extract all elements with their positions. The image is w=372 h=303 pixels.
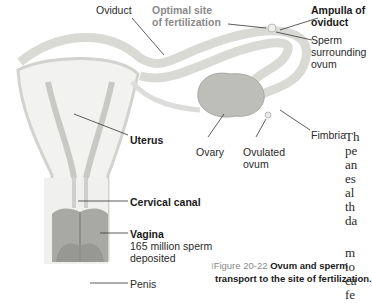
body-text-fragment: ca <box>345 274 357 288</box>
body-text-fragment: th <box>345 200 355 214</box>
figure-number: Figure 20-22 <box>214 260 268 271</box>
body-text-fragment: pe <box>345 144 357 158</box>
label-optimal-site-line2: of fertilization <box>152 16 221 28</box>
body-text-fragment: io <box>345 260 355 274</box>
label-ovulated-line1: Ovulated <box>243 146 285 158</box>
body-text-fragment: an <box>345 158 357 172</box>
label-oviduct: Oviduct <box>96 4 132 16</box>
label-sperm-line3: ovum <box>311 58 337 70</box>
label-uterus: Uterus <box>130 134 163 146</box>
label-vagina-note-line1: 165 million sperm <box>130 240 212 252</box>
body-text-fragment: al <box>345 186 354 200</box>
label-sperm-line2: surrounding <box>311 46 366 58</box>
body-text-fragment: Th <box>345 130 359 144</box>
label-ampulla-line2: oviduct <box>311 16 348 28</box>
label-penis: Penis <box>130 278 156 290</box>
body-text-fragment: es <box>345 172 356 186</box>
body-text-fragment: m <box>345 246 355 260</box>
label-ovulated-line2: ovum <box>243 158 269 170</box>
label-vagina: Vagina <box>130 228 164 240</box>
label-fimbria: Fimbria <box>311 129 346 141</box>
label-cervical-canal: Cervical canal <box>130 196 201 208</box>
label-vagina-note-line2: deposited <box>130 252 176 264</box>
label-ampulla-line1: Ampulla of <box>311 4 365 16</box>
body-text-fragment: fe <box>345 288 355 302</box>
body-text-fragment: da <box>345 214 357 228</box>
label-optimal-site-line1: Optimal site <box>152 4 212 16</box>
caption-line1: Ovum and sperm <box>270 260 348 271</box>
label-sperm-line1: Sperm <box>311 34 342 46</box>
label-ovary: Ovary <box>196 146 224 158</box>
